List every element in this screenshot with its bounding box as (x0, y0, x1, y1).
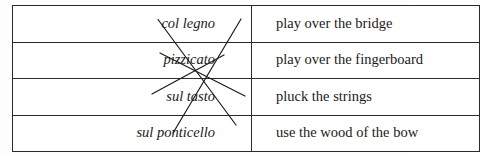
definition-cell-play-over-the-bridge[interactable]: play over the bridge (252, 6, 480, 43)
table-body: col legno play over the bridge pizzicato… (13, 6, 480, 152)
table-row: sul tasto pluck the strings (13, 79, 480, 116)
table-row: sul ponticello use the wood of the bow (13, 115, 480, 152)
definition-cell-pluck-the-strings[interactable]: pluck the strings (252, 79, 480, 116)
definition-cell-play-over-the-fingerboard[interactable]: play over the fingerboard (252, 42, 480, 79)
matching-table: col legno play over the bridge pizzicato… (12, 5, 480, 152)
term-cell-col-legno[interactable]: col legno (13, 6, 252, 43)
term-cell-sul-tasto[interactable]: sul tasto (13, 79, 252, 116)
term-cell-sul-ponticello[interactable]: sul ponticello (13, 115, 252, 152)
table-row: col legno play over the bridge (13, 6, 480, 43)
definition-cell-use-the-wood-of-the-bow[interactable]: use the wood of the bow (252, 115, 480, 152)
term-cell-pizzicato[interactable]: pizzicato (13, 42, 252, 79)
table-row: pizzicato play over the fingerboard (13, 42, 480, 79)
